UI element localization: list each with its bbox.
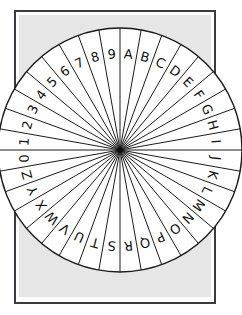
sector-label-S: S bbox=[107, 238, 117, 254]
sector-label-9: 9 bbox=[107, 46, 117, 62]
sector-label-A: A bbox=[123, 46, 133, 62]
cipher-wheel[interactable]: ABCDEFGHIJKLMNOPQRSTUVWXYZ0123456789 bbox=[0, 0, 242, 315]
sector-label-R: R bbox=[123, 238, 133, 254]
wheel-hub[interactable] bbox=[117, 147, 122, 152]
cipher-wheel-stage: ABCDEFGHIJKLMNOPQRSTUVWXYZ0123456789 bbox=[0, 0, 242, 315]
sector-label-1: 1 bbox=[16, 137, 32, 147]
sector-label-0: 0 bbox=[16, 154, 32, 164]
